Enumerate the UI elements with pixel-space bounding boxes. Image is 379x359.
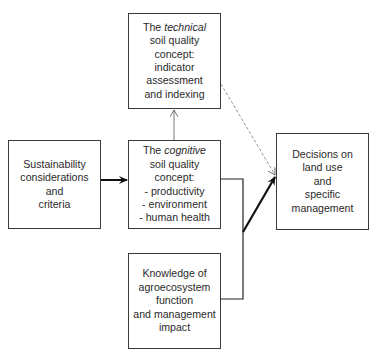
knowledge-line: and management: [133, 308, 215, 321]
technical-line: concept:: [154, 48, 194, 61]
decisions-line: Decisions on: [292, 148, 353, 161]
sustainability-line: considerations: [20, 171, 88, 184]
technical-title: The technical: [143, 21, 206, 34]
arrow-bracket-to-decisions: [243, 177, 275, 232]
cognitive-line: soil quality: [150, 158, 199, 171]
technical-concept-box: The technical soil quality concept: indi…: [128, 13, 221, 109]
decisions-line: land use: [302, 161, 342, 174]
knowledge-line: function: [156, 294, 193, 307]
bracket-cognitive-knowledge: [221, 179, 243, 299]
sustainability-line: Sustainability: [23, 158, 85, 171]
knowledge-box: Knowledge of agroecosystem function and …: [128, 253, 221, 349]
sustainability-line: and: [46, 185, 64, 198]
knowledge-line: Knowledge of: [142, 267, 206, 280]
knowledge-line: agroecosystem: [139, 281, 211, 294]
cognitive-concept-box: The cognitive soil quality concept: - pr…: [128, 140, 221, 229]
cognitive-line: - environment: [142, 198, 207, 211]
technical-line: indicator: [154, 61, 194, 74]
sustainability-box: Sustainability considerations and criter…: [8, 140, 101, 229]
sustainability-line: criteria: [39, 198, 71, 211]
technical-line: assessment: [146, 74, 203, 87]
knowledge-line: impact: [159, 321, 190, 334]
decisions-line: management: [292, 202, 354, 215]
cognitive-line: - productivity: [144, 185, 204, 198]
decisions-line: specific: [305, 188, 340, 201]
decisions-box: Decisions on land use and specific manag…: [276, 133, 369, 230]
cognitive-line: concept:: [154, 171, 194, 184]
technical-line: soil quality: [150, 34, 199, 47]
decisions-line: and: [314, 175, 332, 188]
cognitive-line: - human health: [139, 211, 210, 224]
technical-line: and indexing: [144, 88, 204, 101]
arrow-technical-to-decisions: [221, 84, 275, 175]
cognitive-title: The cognitive: [143, 144, 206, 157]
